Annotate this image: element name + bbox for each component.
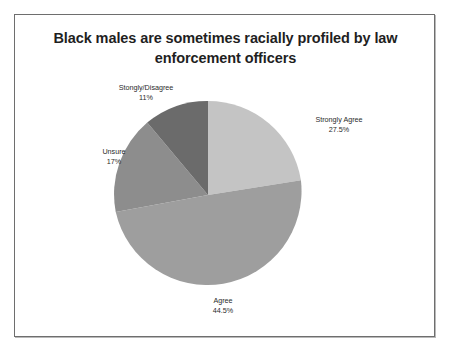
chart-frame: Black males are sometimes racially profi… xyxy=(14,14,435,337)
pie-label-strongly-agree-percent: 27.5% xyxy=(291,125,387,135)
pie-label-strongly-agree: Strongly Agree 27.5% xyxy=(291,115,387,136)
pie-label-strongly-agree-name: Strongly Agree xyxy=(315,115,362,124)
pie-label-unsure-name: Unsure xyxy=(102,147,125,156)
pie-label-agree-name: Agree xyxy=(213,296,232,305)
pie-label-stongly-disagree-percent: 11% xyxy=(101,93,191,103)
pie-chart-svg xyxy=(111,98,305,292)
pie-label-agree-percent: 44.5% xyxy=(175,306,271,316)
pie-chart: Stongly/Disagree 11% Strongly Agree 27.5… xyxy=(15,15,436,338)
pie-label-unsure: Unsure 17% xyxy=(77,147,151,168)
pie-label-agree: Agree 44.5% xyxy=(175,296,271,317)
pie-label-stongly-disagree: Stongly/Disagree 11% xyxy=(101,83,191,104)
pie-label-stongly-disagree-name: Stongly/Disagree xyxy=(119,83,174,92)
pie-slice-strongly-agree[interactable] xyxy=(208,101,301,195)
pie-label-unsure-percent: 17% xyxy=(77,157,151,167)
